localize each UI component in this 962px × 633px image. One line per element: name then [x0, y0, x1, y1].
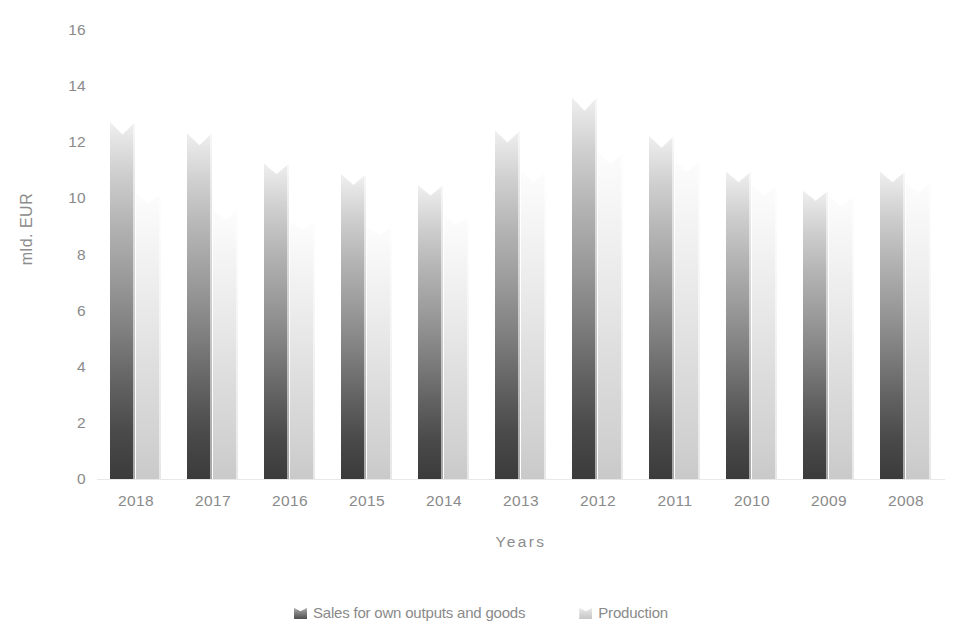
bar-production [675, 153, 700, 479]
bar-production [444, 210, 469, 479]
bar-body [187, 125, 212, 479]
x-axis-tick: 2009 [798, 492, 860, 510]
bar-production [136, 187, 161, 479]
bar-body [367, 221, 392, 479]
bar-body [675, 153, 700, 479]
x-axis-tick: 2015 [336, 492, 398, 510]
legend-label: Production [598, 604, 668, 621]
x-axis-tick-labels: 2018201720162015201420132012201120102009… [97, 492, 945, 522]
x-axis-tick: 2018 [105, 492, 167, 510]
y-axis-tick: 16 [40, 21, 86, 39]
bar-body [418, 179, 443, 479]
bar-group [336, 30, 398, 479]
bar-body [906, 176, 931, 479]
bar-group [490, 30, 552, 479]
bar-sales [110, 114, 135, 479]
bar-body [110, 114, 135, 479]
bar-sales [187, 125, 212, 479]
bar-sales [264, 156, 289, 479]
bar-production [906, 176, 931, 479]
bar-production [213, 204, 238, 479]
bar-group [798, 30, 860, 479]
bar-body [803, 184, 828, 479]
y-axis-tick: 14 [40, 77, 86, 95]
x-axis-title: Years [97, 533, 945, 551]
y-axis-tick: 10 [40, 189, 86, 207]
bar-production [598, 145, 623, 479]
bar-body [290, 215, 315, 479]
x-axis-tick: 2013 [490, 492, 552, 510]
y-axis-tick: 2 [40, 414, 86, 432]
bar-production [752, 179, 777, 479]
x-axis-tick: 2010 [721, 492, 783, 510]
bar-sales [418, 179, 443, 479]
y-axis-tick: 4 [40, 358, 86, 376]
chart-legend: Sales for own outputs and goodsProductio… [0, 604, 962, 621]
bar-body [495, 123, 520, 479]
y-axis-title: mld. EUR [18, 169, 36, 289]
bar-sales [803, 184, 828, 479]
bar-body [521, 165, 546, 479]
bar-group [644, 30, 706, 479]
legend-item[interactable]: Production [579, 604, 668, 621]
bar-sales [341, 168, 366, 479]
bar-sales [572, 89, 597, 479]
bar-body [598, 145, 623, 479]
bar-body [649, 128, 674, 479]
bar-body [572, 89, 597, 479]
legend-swatch-icon [579, 606, 592, 619]
bar-body [726, 165, 751, 479]
bar-body [444, 210, 469, 479]
y-axis-tick: 0 [40, 470, 86, 488]
bar-production [521, 165, 546, 479]
legend-swatch-icon [294, 606, 307, 619]
bar-production [367, 221, 392, 479]
bar-group [105, 30, 167, 479]
x-axis-tick: 2011 [644, 492, 706, 510]
bar-sales [880, 165, 905, 479]
bar-group [875, 30, 937, 479]
x-axis-tick: 2016 [259, 492, 321, 510]
bar-groups [97, 30, 945, 479]
y-axis-tick: 8 [40, 246, 86, 264]
legend-item[interactable]: Sales for own outputs and goods [294, 604, 525, 621]
bar-body [136, 187, 161, 479]
x-axis-tick: 2012 [567, 492, 629, 510]
bar-sales [726, 165, 751, 479]
bar-body [880, 165, 905, 479]
bar-group [413, 30, 475, 479]
y-axis-tick: 12 [40, 133, 86, 151]
bar-group [567, 30, 629, 479]
bar-body [829, 190, 854, 479]
bar-body [752, 179, 777, 479]
bar-chart: mld. EUR 1614121086420 20182017201620152… [0, 0, 962, 633]
bar-group [259, 30, 321, 479]
x-axis-tick: 2017 [182, 492, 244, 510]
bar-sales [649, 128, 674, 479]
y-axis-tick: 6 [40, 302, 86, 320]
bar-production [829, 190, 854, 479]
x-axis-tick: 2008 [875, 492, 937, 510]
y-axis-tick-labels: 1614121086420 [40, 30, 86, 479]
x-axis-tick: 2014 [413, 492, 475, 510]
bar-sales [495, 123, 520, 479]
bar-body [264, 156, 289, 479]
bar-body [341, 168, 366, 479]
bar-group [721, 30, 783, 479]
legend-label: Sales for own outputs and goods [313, 604, 525, 621]
x-axis-line [97, 479, 945, 480]
bar-production [290, 215, 315, 479]
bar-group [182, 30, 244, 479]
bar-body [213, 204, 238, 479]
